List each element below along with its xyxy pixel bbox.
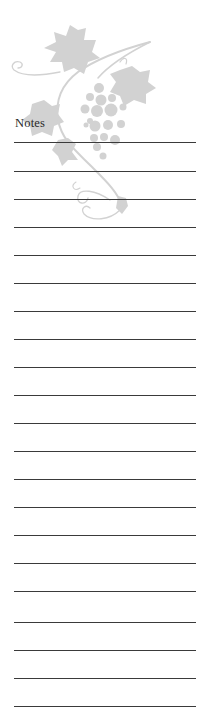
writing-line xyxy=(14,339,196,340)
writing-line xyxy=(14,142,196,143)
writing-line xyxy=(14,451,196,452)
writing-line xyxy=(14,171,196,172)
writing-line xyxy=(14,479,196,480)
writing-line xyxy=(14,199,196,200)
writing-line xyxy=(14,622,196,623)
writing-line xyxy=(14,367,196,368)
writing-line xyxy=(14,395,196,396)
writing-line xyxy=(14,563,196,564)
writing-line xyxy=(14,283,196,284)
writing-line xyxy=(14,706,196,707)
writing-line xyxy=(14,507,196,508)
notes-title: Notes xyxy=(15,116,45,131)
writing-line xyxy=(14,591,196,592)
writing-line xyxy=(14,423,196,424)
writing-line xyxy=(14,650,196,651)
writing-line xyxy=(14,311,196,312)
writing-line xyxy=(14,678,196,679)
writing-line xyxy=(14,535,196,536)
writing-line xyxy=(14,255,196,256)
writing-line xyxy=(14,227,196,228)
